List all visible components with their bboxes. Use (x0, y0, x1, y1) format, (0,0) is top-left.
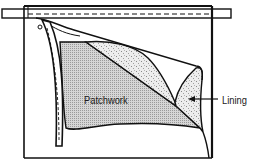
lining-label: Lining (222, 95, 247, 106)
quilt-illustration (0, 0, 258, 167)
diagram-canvas: Patchwork Lining (0, 0, 258, 167)
binding-edge (38, 20, 63, 146)
patchwork-label: Patchwork (84, 95, 128, 106)
